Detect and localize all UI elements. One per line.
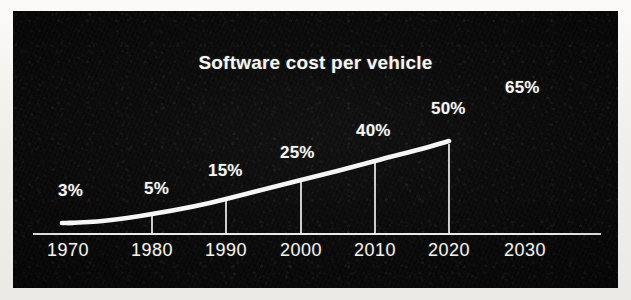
- value-label-2030: 65%: [505, 78, 540, 98]
- x-tick-label-1990: 1990: [205, 240, 247, 261]
- x-tick-label-2000: 2000: [280, 240, 322, 261]
- x-tick-label-2030: 2030: [504, 240, 546, 261]
- chart-screenshot: Software cost per vehicle 3% 5% 15% 25% …: [0, 0, 631, 300]
- value-label-2020: 50%: [431, 99, 466, 119]
- value-label-1970: 3%: [58, 181, 83, 201]
- value-label-2010: 40%: [356, 121, 391, 141]
- data-line-software-cost: [68, 141, 449, 223]
- x-tick-label-1980: 1980: [131, 240, 173, 261]
- x-tick-label-2020: 2020: [428, 240, 470, 261]
- value-label-2000: 25%: [280, 143, 315, 163]
- chart-panel: Software cost per vehicle 3% 5% 15% 25% …: [13, 11, 618, 288]
- chart-title: Software cost per vehicle: [13, 52, 618, 74]
- value-label-1990: 15%: [208, 161, 243, 181]
- x-tick-label-2010: 2010: [354, 240, 396, 261]
- x-tick-label-1970: 1970: [47, 240, 89, 261]
- value-label-1980: 5%: [144, 179, 169, 199]
